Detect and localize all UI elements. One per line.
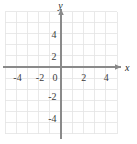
x-tick-label-minus4: -4 <box>13 72 21 83</box>
y-tick-label-2: 2 <box>52 51 57 62</box>
x-tick-label-2: 2 <box>81 72 86 83</box>
y-tick-label-minus4: -4 <box>48 113 56 124</box>
y-axis-label: y <box>57 0 63 11</box>
coordinate-graph: -4 -2 0 2 4 4 2 -2 -4 y x <box>0 0 137 144</box>
x-tick-label-zero: 0 <box>53 72 58 83</box>
x-axis <box>3 64 121 70</box>
x-axis-label: x <box>124 62 130 73</box>
y-tick-label-minus2: -2 <box>48 91 56 102</box>
y-tick-label-4: 4 <box>52 29 57 40</box>
x-axis-arrowhead <box>115 64 121 70</box>
x-tick-label-4: 4 <box>104 72 109 83</box>
x-tick-label-minus2: -2 <box>36 72 44 83</box>
coordinate-plane-svg: -4 -2 0 2 4 4 2 -2 -4 y x <box>0 0 137 144</box>
y-axis <box>58 9 64 139</box>
